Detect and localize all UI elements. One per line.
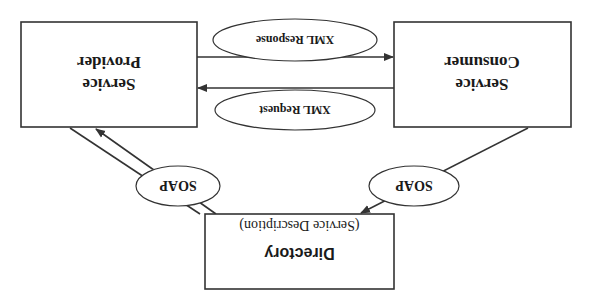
soap-right-text: SOAP — [395, 178, 433, 193]
web-services-diagram: Service Provider Service Consumer Direct… — [0, 0, 590, 306]
xml-request-text: XML Request — [259, 103, 331, 117]
directory-title: Directory — [264, 245, 334, 262]
xml-response-text: XML Response — [255, 33, 334, 47]
soap-left-text: SOAP — [159, 178, 197, 193]
soap-right-label: SOAP — [369, 166, 459, 206]
xml-response-label: XML Response — [213, 19, 377, 61]
service-provider-node: Service Provider — [21, 22, 197, 127]
service-provider-line1: Service — [82, 75, 135, 94]
service-consumer-node: Service Consumer — [394, 22, 571, 127]
service-provider-line2: Provider — [77, 53, 141, 72]
soap-left-label: SOAP — [136, 166, 220, 206]
xml-request-label: XML Request — [215, 90, 375, 130]
service-consumer-line2: Consumer — [444, 53, 520, 72]
directory-node: Directory (Service Description) — [205, 214, 394, 289]
service-consumer-line1: Service — [455, 75, 508, 94]
directory-subtitle: (Service Description) — [239, 217, 359, 233]
